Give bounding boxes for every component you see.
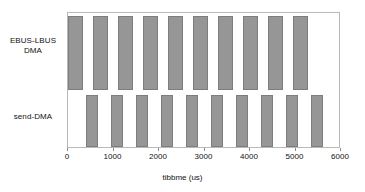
x-tick-label: 3000 xyxy=(195,152,213,162)
x-tick-mark xyxy=(67,148,68,151)
plot-frame xyxy=(67,12,340,148)
category-label-ebus-lbus-dma: EBUS-LBUS DMA xyxy=(2,36,64,56)
bar xyxy=(261,95,273,147)
bar xyxy=(218,16,233,90)
bar xyxy=(136,95,148,147)
bar xyxy=(286,95,298,147)
chart-container: EBUS-LBUS DMA send-DMA 01000200030004000… xyxy=(0,0,365,192)
bar xyxy=(236,95,248,147)
x-tick-label: 0 xyxy=(65,152,69,162)
bar xyxy=(68,16,83,90)
bar xyxy=(268,16,283,90)
bar xyxy=(143,16,158,90)
bar xyxy=(186,95,198,147)
x-tick-mark xyxy=(295,148,296,151)
bar xyxy=(311,95,323,147)
x-tick-label: 4000 xyxy=(240,152,258,162)
x-tick-label: 2000 xyxy=(149,152,167,162)
x-tick-mark xyxy=(113,148,114,151)
x-tick-label: 1000 xyxy=(104,152,122,162)
x-tick-mark xyxy=(249,148,250,151)
bar xyxy=(86,95,98,147)
bar xyxy=(111,95,123,147)
bar xyxy=(93,16,108,90)
x-tick-mark xyxy=(340,148,341,151)
bar xyxy=(293,16,308,90)
plot-area xyxy=(68,13,339,147)
bar xyxy=(161,95,173,147)
bar xyxy=(193,16,208,90)
bar xyxy=(211,95,223,147)
x-tick-mark xyxy=(158,148,159,151)
x-tick-label: 5000 xyxy=(286,152,304,162)
category-label-send-dma: send-DMA xyxy=(2,112,64,122)
bar xyxy=(168,16,183,90)
bar xyxy=(118,16,133,90)
x-axis-title: tibbme (us) xyxy=(0,172,365,183)
x-tick-mark xyxy=(204,148,205,151)
x-tick-label: 6000 xyxy=(331,152,349,162)
bar xyxy=(243,16,258,90)
